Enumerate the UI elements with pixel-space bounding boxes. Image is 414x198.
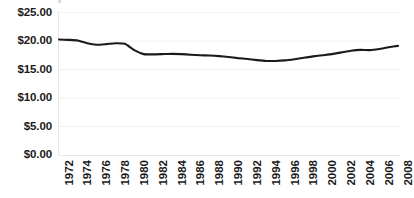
x-tick-label-1978: 1978 — [120, 160, 132, 186]
x-tick-label-2000: 2000 — [327, 160, 339, 186]
x-tick-label-1984: 1984 — [177, 160, 189, 186]
x-tick-label-1992: 1992 — [252, 160, 264, 186]
x-tick-label-1996: 1996 — [290, 160, 302, 186]
x-tick-label-1980: 1980 — [139, 160, 151, 186]
x-tick-label-1988: 1988 — [214, 160, 226, 186]
x-tick-label-1986: 1986 — [195, 160, 207, 186]
x-tick-label-1994: 1994 — [271, 160, 283, 186]
x-tick-label-2002: 2002 — [346, 160, 358, 186]
x-tick-label-1972: 1972 — [64, 160, 76, 186]
x-tick-label-1998: 1998 — [308, 160, 320, 186]
x-tick-label-2006: 2006 — [384, 160, 396, 186]
x-tick-label-1974: 1974 — [82, 160, 94, 186]
x-tick-label-2008: 2008 — [403, 160, 414, 186]
x-tick-label-1976: 1976 — [101, 160, 113, 186]
x-tick-label-2004: 2004 — [365, 160, 377, 186]
x-tick-label-1990: 1990 — [233, 160, 245, 186]
x-tick-label-1982: 1982 — [158, 160, 170, 186]
